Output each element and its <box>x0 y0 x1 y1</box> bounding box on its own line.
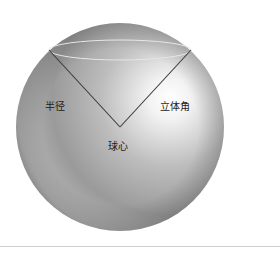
solid-angle-diagram: 半径 立体角 球心 <box>0 0 280 257</box>
bottom-divider <box>0 246 280 247</box>
sphere-center-label: 球心 <box>108 138 128 153</box>
radius-label: 半径 <box>45 98 65 113</box>
solid-angle-label: 立体角 <box>160 98 190 113</box>
sphere-figure <box>0 0 280 257</box>
